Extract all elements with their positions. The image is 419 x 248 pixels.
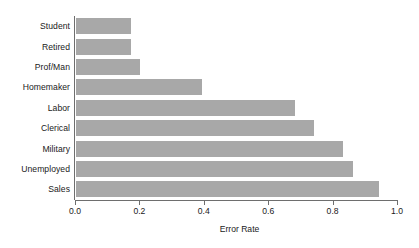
x-axis-tick [75,201,76,205]
plot-area: StudentRetiredProf/ManHomemakerLaborCler… [0,0,419,248]
x-axis-tick-label: 0.8 [327,206,339,216]
x-axis-tick-label: 0.2 [133,206,145,216]
x-axis-line [75,200,398,201]
bar [76,59,140,75]
category-label: Military [42,144,70,154]
category-label: Labor [48,103,70,113]
bar [76,79,202,95]
bar [76,181,379,197]
bar [76,161,353,177]
bar-row: Labor [0,98,419,118]
x-axis-tick [397,201,398,205]
bar-row: Clerical [0,118,419,138]
bar-row: Homemaker [0,77,419,97]
bar [76,100,295,116]
x-axis-tick-label: 0.0 [69,206,81,216]
category-label: Clerical [41,123,70,133]
bar-row: Unemployed [0,159,419,179]
x-axis-tick-label: 0.6 [262,206,274,216]
x-axis-tick-label: 1.0 [391,206,403,216]
bar [76,120,314,136]
category-label: Student [40,21,70,31]
bar-row: Prof/Man [0,57,419,77]
bar-chart: StudentRetiredProf/ManHomemakerLaborCler… [0,0,419,248]
bar-row: Military [0,138,419,158]
x-axis-tick-label: 0.4 [198,206,210,216]
x-axis-tick [204,201,205,205]
x-axis-tick [268,201,269,205]
category-label: Homemaker [23,82,70,92]
category-label: Sales [48,184,70,194]
bar-row: Retired [0,36,419,56]
x-axis-title-label: Error Rate [220,224,260,234]
bar-row: Sales [0,179,419,199]
x-axis-tick [333,201,334,205]
category-label: Retired [42,42,70,52]
bar [76,141,343,157]
x-axis-tick [139,201,140,205]
bar-row: Student [0,16,419,36]
bar [76,39,131,55]
bar [76,18,131,34]
x-axis-title: Error Rate [0,224,419,234]
category-label: Prof/Man [35,62,70,72]
category-label: Unemployed [21,164,70,174]
